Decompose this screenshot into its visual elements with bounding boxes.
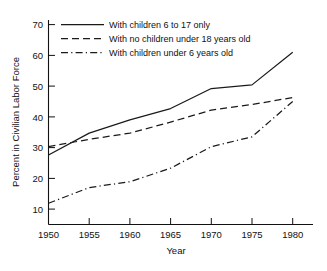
chart-svg: 70 60 50 40 30 20 10 1950 1955 1960 1965… [0, 0, 327, 271]
legend: With children 6 to 17 only With no child… [61, 20, 251, 58]
legend-label-children-under-6: With children under 6 years old [109, 48, 233, 58]
y-axis-tick-labels: 70 60 50 40 30 20 10 [32, 19, 43, 215]
y-tick-label-40: 40 [32, 112, 43, 123]
y-tick-label-30: 30 [32, 142, 43, 153]
y-axis-ticks [49, 25, 56, 210]
x-tick-label-1965: 1965 [160, 229, 181, 240]
x-tick-label-1970: 1970 [201, 229, 222, 240]
x-tick-label-1980: 1980 [282, 229, 303, 240]
x-axis-ticks [49, 218, 293, 225]
series-line-children-under-6 [49, 101, 293, 203]
y-axis-title: Percent in Civilian Labor Force [10, 57, 21, 187]
y-tick-label-50: 50 [32, 81, 43, 92]
series-line-no-children-under-18 [49, 97, 293, 146]
series-group [49, 52, 293, 203]
x-tick-label-1955: 1955 [79, 229, 100, 240]
legend-label-no-children-under-18: With no children under 18 years old [109, 34, 251, 44]
x-tick-label-1975: 1975 [241, 229, 262, 240]
y-tick-label-10: 10 [32, 204, 43, 215]
x-axis-tick-labels: 1950 1955 1960 1965 1970 1975 1980 [38, 229, 303, 240]
legend-label-children-6-to-17: With children 6 to 17 only [109, 20, 211, 30]
x-axis-title: Year [166, 245, 185, 256]
y-tick-label-20: 20 [32, 173, 43, 184]
line-chart: 70 60 50 40 30 20 10 1950 1955 1960 1965… [0, 0, 327, 271]
y-tick-label-70: 70 [32, 19, 43, 30]
x-tick-label-1950: 1950 [38, 229, 59, 240]
x-tick-label-1960: 1960 [119, 229, 140, 240]
y-tick-label-60: 60 [32, 50, 43, 61]
